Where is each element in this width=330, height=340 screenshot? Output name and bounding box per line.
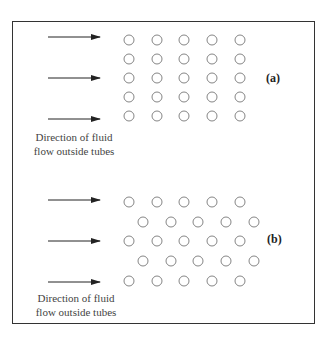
tube-circle-icon: [235, 197, 245, 207]
tube-circle-icon: [124, 35, 134, 45]
tube-circle-icon: [207, 111, 217, 121]
tube-circle-icon: [124, 54, 134, 64]
panel-b-flow-arrows: [48, 200, 100, 282]
tube-circle-icon: [235, 92, 245, 102]
tube-circle-icon: [179, 92, 189, 102]
tube-circle-icon: [152, 197, 162, 207]
tube-circle-icon: [179, 276, 189, 286]
tube-circle-icon: [207, 276, 217, 286]
tube-circle-icon: [152, 276, 162, 286]
tube-circle-icon: [207, 92, 217, 102]
panel-a-tag: (a): [266, 71, 280, 86]
tube-circle-icon: [179, 197, 189, 207]
tube-circle-icon: [179, 35, 189, 45]
panel-a-flow-label-line2: flow outside tubes: [19, 144, 129, 158]
tube-bank-diagram: [0, 0, 330, 340]
tube-circle-icon: [235, 73, 245, 83]
tube-circle-icon: [152, 35, 162, 45]
panel-b-tag: (b): [267, 232, 282, 247]
tube-circle-icon: [166, 256, 176, 266]
tube-circle-icon: [179, 111, 189, 121]
tube-circle-icon: [235, 276, 245, 286]
tube-circle-icon: [124, 197, 134, 207]
tube-circle-icon: [179, 54, 189, 64]
panel-a-flow-label-line1: Direction of fluid: [19, 130, 129, 144]
tube-circle-icon: [179, 236, 189, 246]
tube-circle-icon: [207, 54, 217, 64]
panel-b-flow-label: Direction of fluid flow outside tubes: [21, 291, 131, 319]
tube-circle-icon: [207, 73, 217, 83]
panel-a-flow-arrows: [48, 37, 100, 119]
tube-circle-icon: [138, 217, 148, 227]
tube-circle-icon: [207, 35, 217, 45]
tube-circle-icon: [124, 111, 134, 121]
tube-circle-icon: [207, 236, 217, 246]
tube-circle-icon: [166, 217, 176, 227]
tube-circle-icon: [124, 73, 134, 83]
tube-circle-icon: [152, 54, 162, 64]
tube-circle-icon: [235, 54, 245, 64]
tube-circle-icon: [221, 256, 231, 266]
tube-circle-icon: [152, 111, 162, 121]
tube-circle-icon: [235, 35, 245, 45]
tube-circle-icon: [207, 197, 217, 207]
tube-circle-icon: [249, 217, 259, 227]
tube-circle-icon: [138, 256, 148, 266]
tube-circle-icon: [124, 92, 134, 102]
panel-b-flow-label-line1: Direction of fluid: [21, 291, 131, 305]
tube-circle-icon: [235, 111, 245, 121]
tube-circle-icon: [193, 217, 203, 227]
panel-b-staggered-tube-bank: [124, 197, 259, 286]
tube-circle-icon: [235, 236, 245, 246]
tube-circle-icon: [124, 236, 134, 246]
panel-a-flow-label: Direction of fluid flow outside tubes: [19, 130, 129, 158]
tube-circle-icon: [249, 256, 259, 266]
tube-circle-icon: [152, 236, 162, 246]
tube-circle-icon: [152, 92, 162, 102]
tube-circle-icon: [179, 73, 189, 83]
tube-circle-icon: [124, 276, 134, 286]
tube-circle-icon: [152, 73, 162, 83]
panel-a-inline-tube-bank: [124, 35, 245, 121]
panel-b-flow-label-line2: flow outside tubes: [21, 305, 131, 319]
tube-circle-icon: [221, 217, 231, 227]
tube-circle-icon: [193, 256, 203, 266]
